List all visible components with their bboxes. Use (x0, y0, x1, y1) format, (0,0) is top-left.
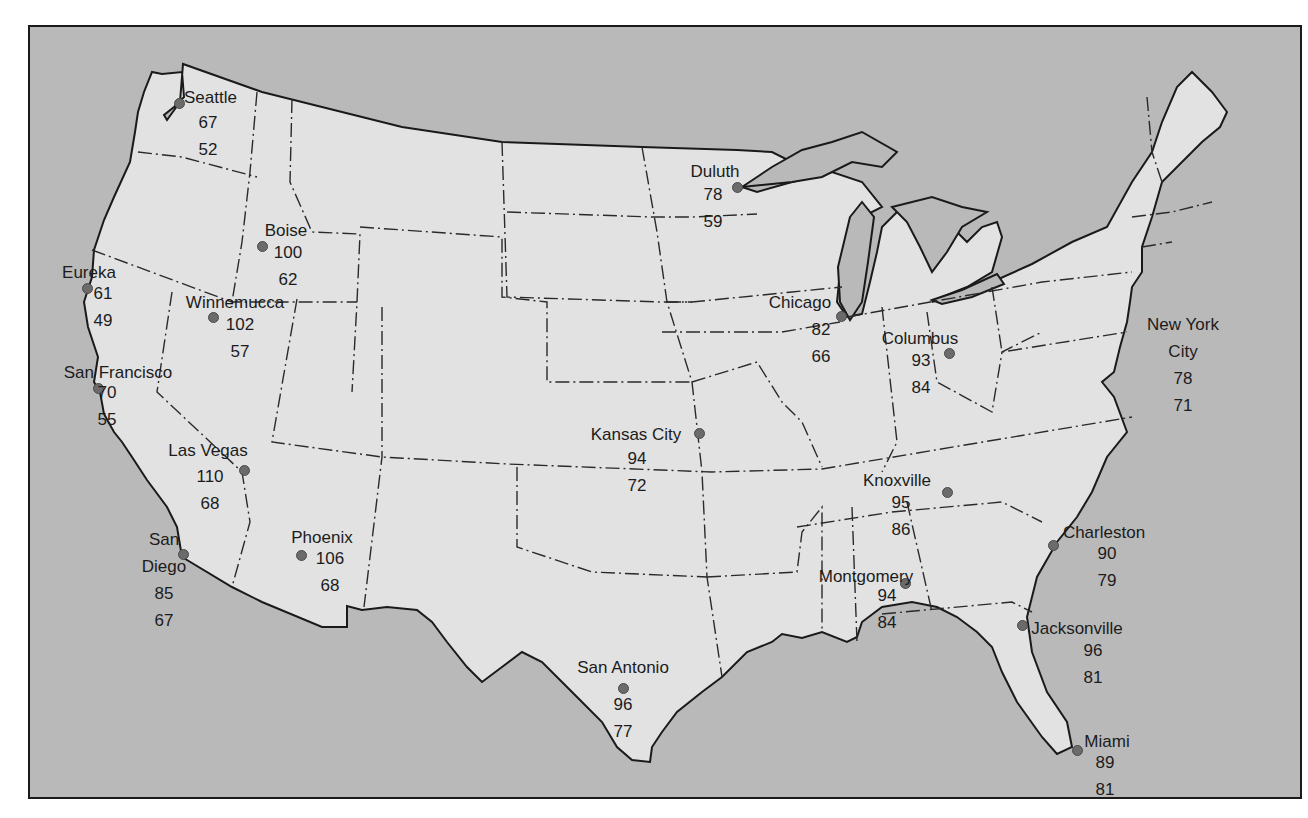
city-high: 78 (1140, 365, 1226, 392)
city-values-boise: 100 62 (266, 239, 310, 293)
city-low: 66 (806, 343, 836, 370)
city-low: 81 (1078, 664, 1108, 691)
city-low: 84 (906, 374, 936, 401)
city-values-columbus: 93 84 (906, 347, 936, 401)
city-values-las-vegas: 110 68 (188, 463, 232, 517)
city-values-jacksonville: 96 81 (1078, 637, 1108, 691)
city-low: 77 (608, 718, 638, 745)
city-low: 59 (698, 208, 728, 235)
city-label-san-antonio: San Antonio (560, 654, 686, 681)
city-name: Seattle (184, 84, 264, 111)
city-high: 106 (308, 545, 352, 572)
city-high: 78 (698, 181, 728, 208)
city-name-line2: City (1140, 338, 1226, 365)
city-label-san-diego: San Diego 85 67 (136, 526, 192, 634)
city-low: 55 (92, 406, 122, 433)
map-frame: Seattle 67 52 Boise 100 62 Eureka 61 49 … (28, 25, 1302, 799)
city-high: 110 (188, 463, 232, 490)
city-high: 61 (88, 280, 118, 307)
city-label-new-york-city: New York City 78 71 (1140, 311, 1226, 419)
city-values-san-antonio: 96 77 (608, 691, 638, 745)
city-high: 67 (188, 109, 228, 136)
city-name-line2: Diego (136, 553, 192, 580)
city-values-duluth: 78 59 (698, 181, 728, 235)
city-values-kansas-city: 94 72 (622, 445, 652, 499)
city-low: 68 (188, 490, 232, 517)
city-values-seattle: 67 52 (188, 109, 228, 163)
city-name-line1: New York (1140, 311, 1226, 338)
city-low: 52 (188, 136, 228, 163)
city-values-montgomery: 94 84 (872, 582, 902, 636)
city-high: 95 (886, 489, 916, 516)
city-dot-knoxville[interactable] (942, 487, 953, 498)
city-values-miami: 89 81 (1090, 749, 1120, 799)
city-high: 96 (1078, 637, 1108, 664)
city-low: 71 (1140, 392, 1226, 419)
city-values-charleston: 90 79 (1092, 540, 1122, 594)
city-low: 79 (1092, 567, 1122, 594)
city-high: 93 (906, 347, 936, 374)
city-label-las-vegas: Las Vegas (158, 437, 258, 464)
city-name: Kansas City (576, 421, 696, 448)
city-low: 68 (308, 572, 352, 599)
city-high: 96 (608, 691, 638, 718)
city-dot-las-vegas[interactable] (239, 465, 250, 476)
city-low: 72 (622, 472, 652, 499)
city-high: 102 (218, 311, 262, 338)
city-values-chicago: 82 66 (806, 316, 836, 370)
city-high: 94 (872, 582, 902, 609)
city-name: Jacksonville (1022, 615, 1132, 642)
city-high: 90 (1092, 540, 1122, 567)
city-low: 57 (218, 338, 262, 365)
city-high: 85 (136, 580, 192, 607)
city-label-montgomery: Montgomery (806, 563, 926, 590)
city-label-seattle: Seattle (184, 84, 264, 111)
city-low: 49 (88, 307, 118, 334)
city-high: 100 (266, 239, 310, 266)
city-label-jacksonville: Jacksonville (1022, 615, 1132, 642)
city-high: 70 (92, 379, 122, 406)
city-low: 81 (1090, 776, 1120, 799)
city-low: 67 (136, 607, 192, 634)
city-values-san-francisco: 70 55 (92, 379, 122, 433)
city-values-phoenix: 106 68 (308, 545, 352, 599)
city-name: Las Vegas (158, 437, 258, 464)
city-values-eureka: 61 49 (88, 280, 118, 334)
city-low: 86 (886, 516, 916, 543)
city-high: 82 (806, 316, 836, 343)
city-high: 94 (622, 445, 652, 472)
city-name: Chicago (758, 289, 842, 316)
city-label-chicago: Chicago (758, 289, 842, 316)
city-low: 84 (872, 609, 902, 636)
city-high: 89 (1090, 749, 1120, 776)
city-values-knoxville: 95 86 (886, 489, 916, 543)
city-values-winnemucca: 102 57 (218, 311, 262, 365)
city-label-kansas-city: Kansas City (576, 421, 696, 448)
city-name-line1: San (136, 526, 192, 553)
city-dot-phoenix[interactable] (296, 550, 307, 561)
city-name: Montgomery (806, 563, 926, 590)
city-name: San Antonio (560, 654, 686, 681)
